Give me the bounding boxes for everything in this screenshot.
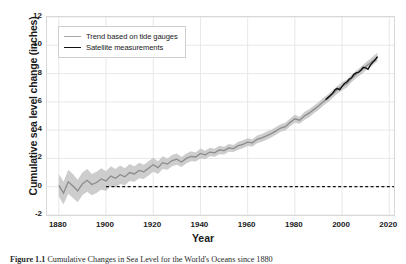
- x-tick-2000: 2000: [321, 220, 361, 229]
- legend-label-satellite: Satellite measurements: [86, 43, 163, 52]
- figure-container: Cumulative sea level change (inches) Yea…: [0, 0, 406, 264]
- y-tick-2: 2: [16, 153, 42, 161]
- y-tick-4: 4: [16, 125, 42, 133]
- y-tick-0: 0: [16, 182, 42, 190]
- caption-label: Figure 1.1: [10, 255, 45, 264]
- legend-label-trend: Trend based on tide gauges: [86, 32, 178, 41]
- x-tick-2020: 2020: [368, 220, 406, 229]
- x-tick-1960: 1960: [227, 220, 267, 229]
- chart-legend: Trend based on tide gauges Satellite mea…: [58, 26, 186, 58]
- legend-swatch-satellite-line: [64, 47, 81, 48]
- x-tick-1980: 1980: [274, 220, 314, 229]
- legend-swatch-trend-line: [64, 36, 81, 37]
- uncertainty-band: [59, 53, 378, 204]
- y-tick-6: 6: [16, 97, 42, 105]
- y-tick-12: 12: [16, 12, 42, 20]
- x-axis-tick-labels: 18801900192019401960198020002020: [0, 220, 406, 232]
- y-tick-10: 10: [16, 40, 42, 48]
- x-tick-1920: 1920: [132, 220, 172, 229]
- caption-text: Cumulative Changes in Sea Level for the …: [47, 255, 272, 264]
- y-tick--2: -2: [16, 210, 42, 218]
- x-tick-1900: 1900: [85, 220, 125, 229]
- x-tick-1940: 1940: [179, 220, 219, 229]
- legend-item-trend: Trend based on tide gauges: [64, 31, 178, 42]
- x-tick-1880: 1880: [38, 220, 78, 229]
- legend-item-satellite: Satellite measurements: [64, 42, 178, 53]
- figure-caption: Figure 1.1 Cumulative Changes in Sea Lev…: [10, 255, 402, 264]
- x-axis-title: Year: [0, 232, 406, 244]
- y-tick-8: 8: [16, 69, 42, 77]
